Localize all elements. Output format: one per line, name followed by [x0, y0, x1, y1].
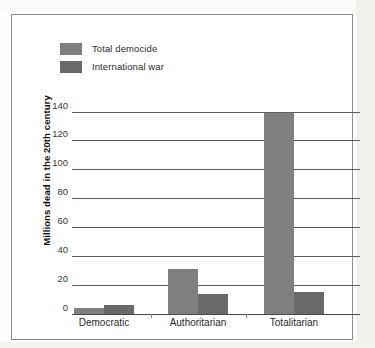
- gridline: [72, 112, 360, 113]
- scan-margin-top: [0, 0, 375, 12]
- plot-area: [72, 100, 360, 314]
- figure-frame: Total democideInternational war Millions…: [11, 14, 353, 340]
- y-axis-tick-label: 120: [38, 129, 68, 139]
- x-axis-tick-label: Democratic: [59, 317, 149, 328]
- x-axis-tick-label: Authoritarian: [153, 317, 243, 328]
- legend-item-label: International war: [92, 61, 164, 72]
- bar-totalitarian-total-democide: [264, 113, 294, 314]
- x-axis-tick-labels: DemocraticAuthoritarianTotalitarian: [72, 317, 360, 333]
- gridline: [72, 227, 360, 228]
- legend-item: Total democide: [60, 41, 164, 56]
- gridline: [72, 140, 360, 141]
- y-axis-tick-label: 20: [38, 274, 68, 284]
- x-axis-line: [72, 314, 360, 315]
- x-axis-tick-label: Totalitarian: [249, 317, 339, 328]
- gridline: [72, 169, 360, 170]
- y-axis-tick-label: 140: [38, 101, 68, 111]
- y-axis-tick-label: 60: [38, 216, 68, 226]
- scanned-page-background: Total democideInternational war Millions…: [0, 0, 375, 348]
- y-axis-tick-label: 0: [38, 303, 68, 313]
- legend-swatch-international-war: [60, 61, 82, 73]
- bar-authoritarian-total-democide: [168, 269, 198, 314]
- legend-item: International war: [60, 59, 164, 74]
- legend-swatch-total-democide: [60, 43, 82, 55]
- y-axis-tick-label: 40: [38, 245, 68, 255]
- scan-margin-bottom: [0, 342, 375, 348]
- gridline: [72, 198, 360, 199]
- bar-authoritarian-international-war: [198, 294, 228, 314]
- bar-totalitarian-international-war: [294, 292, 324, 314]
- gridline: [72, 285, 360, 286]
- chart-legend: Total democideInternational war: [60, 41, 164, 77]
- gridline: [72, 256, 360, 257]
- y-axis-tick-labels: 020406080100120140: [36, 100, 68, 320]
- bar-democratic-total-democide: [74, 308, 104, 314]
- y-axis-tick-label: 100: [38, 158, 68, 168]
- bar-democratic-international-war: [104, 305, 134, 314]
- legend-item-label: Total democide: [92, 43, 157, 54]
- y-axis-tick-label: 80: [38, 187, 68, 197]
